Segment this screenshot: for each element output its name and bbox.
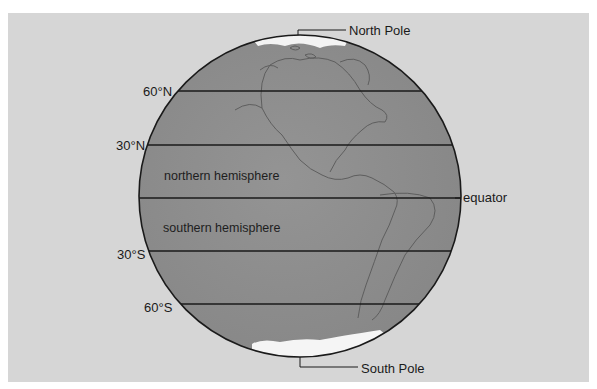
latitude-60s-label: 60°S (144, 301, 172, 314)
latitude-30s-label: 30°S (117, 248, 145, 261)
southern-hemisphere-label: southern hemisphere (163, 222, 280, 235)
south-pole-label: South Pole (361, 362, 425, 375)
globe (130, 32, 470, 364)
north-pole-label: North Pole (349, 24, 410, 37)
equator-label: equator (463, 191, 507, 204)
northern-hemisphere-label: northern hemisphere (164, 170, 279, 183)
south-pole-leader (300, 357, 358, 367)
latitude-30n-label: 30°N (116, 139, 145, 152)
globe-diagram (0, 0, 597, 389)
north-pole-leader (298, 30, 346, 35)
latitude-60n-label: 60°N (143, 85, 172, 98)
